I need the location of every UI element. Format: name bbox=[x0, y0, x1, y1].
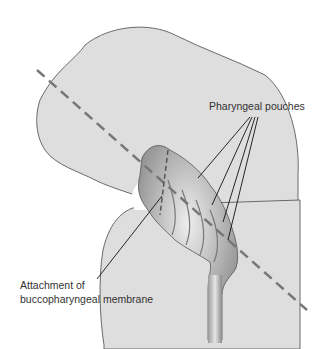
attachment-label-line1: Attachment of bbox=[20, 279, 85, 292]
esophagus bbox=[208, 275, 222, 343]
pouches-label: Pharyngeal pouches bbox=[209, 100, 305, 113]
attachment-label-line2: buccopharyngeal membrane bbox=[20, 293, 153, 306]
